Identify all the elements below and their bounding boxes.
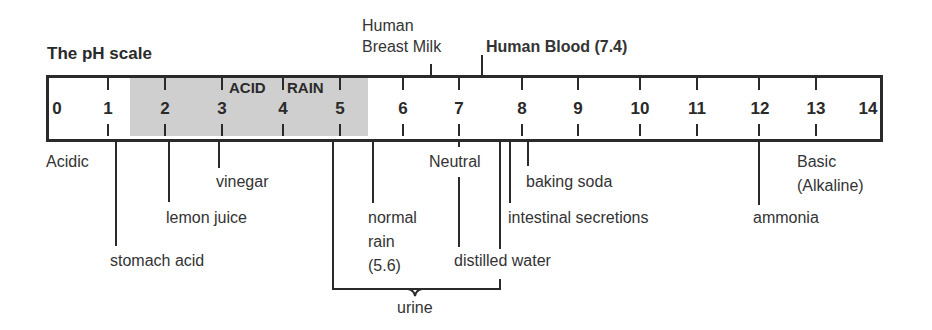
baking-soda-label: baking soda — [526, 172, 612, 191]
distilled-water-label: distilled water — [454, 251, 551, 270]
neutral-label: Neutral — [429, 152, 481, 171]
acidic-label: Acidic — [46, 152, 89, 171]
normal-rain-label-line3: (5.6) — [368, 256, 401, 275]
urine-label: urine — [397, 298, 433, 317]
basic-label-line1: Basic — [797, 152, 836, 171]
intestinal-secretions-label: intestinal secretions — [508, 208, 649, 227]
normal-rain-label-line2: rain — [368, 232, 395, 251]
vinegar-label: vinegar — [216, 172, 268, 191]
stomach-acid-label: stomach acid — [110, 251, 204, 270]
normal-rain-label-line1: normal — [368, 208, 417, 227]
ammonia-label: ammonia — [753, 208, 819, 227]
lemon-juice-label: lemon juice — [166, 208, 247, 227]
basic-label-line2: (Alkaline) — [797, 176, 864, 195]
